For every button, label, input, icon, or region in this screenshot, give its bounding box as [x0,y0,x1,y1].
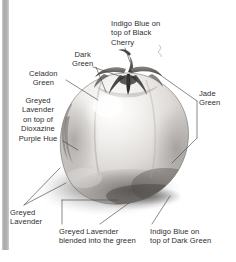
label-dark-green: Dark Green [72,50,93,69]
label-greyed-lavender: Greyed Lavender [10,208,42,227]
label-celadon-green: Celadon Green [29,69,58,88]
label-greyed-lavender-on-dioxazine-purple-hue: Greyed Lavender on top of Dioxazine Purp… [9,96,67,143]
label-indigo-blue-on-dark-green: Indigo Blue on top of Dark Green [150,227,211,246]
label-indigo-blue-on-black-cherry: Indigo Blue on top of Black Cherry [111,19,160,47]
label-jade-green: Jade Green [199,89,220,108]
page-canvas: Indigo Blue on top of Black Cherry Dark … [0,0,236,262]
label-greyed-lavender-blended-into-the-green: Greyed Lavender blended into the green [59,227,136,246]
